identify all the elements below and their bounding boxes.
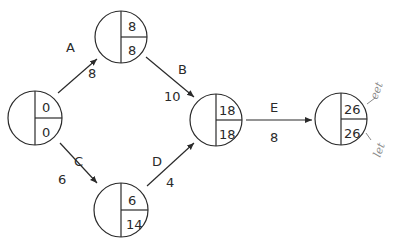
network-diagram: A 8 B 10 C 6 D 4 E 8 0 0 8 8 18 18 6 14: [0, 0, 406, 244]
let-leader-line: [366, 133, 371, 140]
node-4-eet: 6: [128, 193, 136, 208]
node-3-let: 18: [219, 127, 236, 142]
activity-c-duration: 6: [58, 172, 66, 187]
node-4-let: 14: [126, 217, 143, 232]
eet-annotation: eet: [368, 80, 386, 101]
node-2: [95, 11, 147, 63]
activity-b-label: B: [178, 62, 187, 77]
activity-e-label: E: [270, 100, 278, 115]
activity-a-duration: 8: [88, 66, 96, 81]
let-annotation: let: [371, 140, 388, 159]
node-5-let: 26: [344, 126, 361, 141]
node-2-eet: 8: [128, 19, 136, 34]
activity-d-duration: 4: [166, 175, 174, 190]
node-2-let: 8: [128, 43, 136, 58]
node-5-eet: 26: [344, 102, 361, 117]
activity-c-label: C: [74, 154, 83, 169]
activity-e-duration: 8: [270, 130, 278, 145]
activity-d-label: D: [152, 154, 162, 169]
node-3-eet: 18: [219, 103, 236, 118]
node-1-eet: 0: [42, 100, 50, 115]
activity-b-duration: 10: [164, 89, 181, 104]
node-1-let: 0: [42, 125, 50, 140]
activity-a-label: A: [66, 40, 75, 55]
node-1: [8, 91, 62, 145]
